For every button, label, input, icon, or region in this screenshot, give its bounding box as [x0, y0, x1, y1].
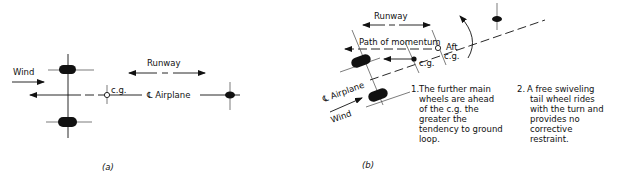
note-1-line: greater the	[419, 114, 467, 124]
cg-label-b: c.g.	[419, 58, 434, 68]
note-1-line: tendency to ground	[419, 124, 503, 134]
cg-marker-b	[411, 56, 416, 61]
cg-label-a: c.g.	[111, 85, 126, 95]
path-of-momentum-label: Path of momentum	[359, 37, 441, 47]
tail-wheel-b	[492, 16, 502, 22]
note-2-line: with the turn and	[530, 104, 604, 114]
tail-wheel-a	[225, 92, 235, 99]
note-2-line: restraint.	[530, 134, 569, 144]
note-1-line: wheels are ahead	[419, 94, 494, 104]
note-1-line: The further main	[418, 84, 491, 94]
lower-main-wheel-b	[367, 87, 389, 103]
note-2-line: A free swiveling	[527, 84, 595, 94]
note-2-number: 2.	[517, 84, 525, 94]
upper-main-wheel-b	[350, 53, 372, 69]
centerline-label-a: ℄ Airplane	[146, 90, 190, 100]
note-2-line: corrective	[530, 124, 572, 134]
wind-label-a: Wind	[13, 67, 34, 77]
note-1-line: loop.	[419, 134, 440, 144]
runway-label-a: Runway	[147, 58, 181, 68]
note-1-line: of the c.g. the	[419, 104, 479, 114]
panel-a: Wind c.g. ℄ Airplane Runway (a)	[12, 54, 240, 172]
runway-label-b: Runway	[374, 11, 408, 21]
cg-marker-a	[104, 92, 109, 97]
upper-main-wheel-a	[59, 65, 76, 74]
aft-cg-marker	[435, 45, 440, 50]
rotation-arrow	[460, 16, 473, 58]
note-2-line: tail wheel rides	[530, 94, 595, 104]
note-2: 2. A free swiveling tail wheel rides wit…	[517, 84, 604, 144]
panel-b: Runway Path of momentum c.g. Aft c.g.	[320, 3, 603, 170]
centerline-label-b: ℄ Airplane	[320, 80, 365, 105]
caption-a: (a)	[102, 162, 114, 172]
lower-main-wheel-a	[58, 117, 77, 127]
aft-cg-label: c.g.	[444, 51, 459, 61]
caption-b: (b)	[362, 160, 374, 170]
note-1: 1. The further main wheels are ahead of …	[411, 84, 503, 144]
note-1-number: 1.	[411, 84, 419, 94]
diagram-canvas: Wind c.g. ℄ Airplane Runway (a)	[0, 0, 620, 183]
note-2-line: provides no	[530, 114, 580, 124]
